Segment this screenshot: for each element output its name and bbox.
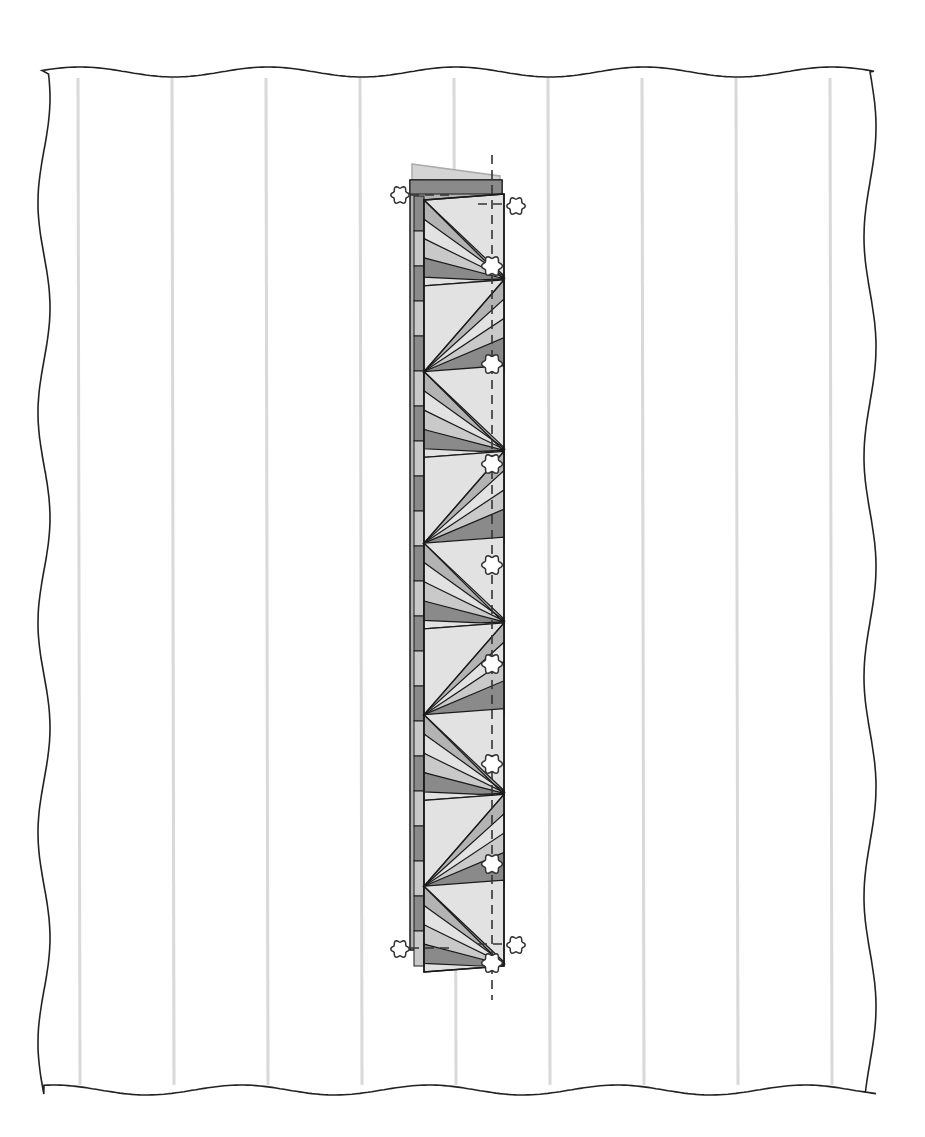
- pin-icon: [507, 198, 525, 214]
- seam-line: [642, 78, 644, 1085]
- side-column-segment: [414, 581, 424, 616]
- side-column-segment: [414, 266, 424, 301]
- side-column-segment: [414, 616, 424, 651]
- seam-line: [360, 78, 362, 1085]
- seam-line: [736, 78, 738, 1085]
- side-column-segment: [414, 791, 424, 826]
- pin-icon: [391, 941, 409, 957]
- side-column-segment: [414, 721, 424, 756]
- pin-head: [507, 937, 525, 953]
- pin-head: [507, 198, 525, 214]
- side-column-segment: [414, 546, 424, 581]
- side-column-segment: [414, 861, 424, 896]
- side-column-segment: [414, 301, 424, 336]
- side-column-segment: [414, 371, 424, 406]
- side-column-segment: [414, 441, 424, 476]
- side-column-segment: [414, 231, 424, 266]
- pin-head: [391, 941, 409, 957]
- quilt-diagram: [0, 0, 925, 1137]
- seam-line: [266, 78, 268, 1085]
- strip-top-band: [410, 180, 502, 194]
- seam-line: [830, 78, 832, 1085]
- side-column-segment: [414, 756, 424, 791]
- side-column-segment: [414, 511, 424, 546]
- side-column-segment: [414, 196, 424, 231]
- seam-line: [172, 78, 174, 1085]
- side-column-segment: [414, 896, 424, 931]
- pin-head: [391, 187, 409, 203]
- side-column-segment: [414, 686, 424, 721]
- side-column-segment: [414, 336, 424, 371]
- seam-line: [78, 78, 80, 1085]
- side-column-segment: [414, 651, 424, 686]
- pin-icon: [391, 187, 409, 203]
- seam-line: [548, 78, 550, 1085]
- pin-icon: [507, 937, 525, 953]
- side-column-segment: [414, 406, 424, 441]
- side-column-segment: [414, 476, 424, 511]
- side-column-segment: [414, 826, 424, 861]
